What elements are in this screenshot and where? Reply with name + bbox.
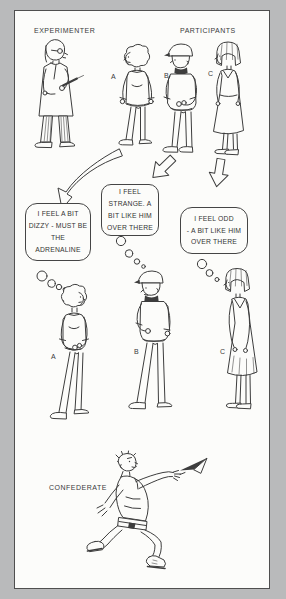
thought-trail-b [116,236,145,268]
paper-airplane-icon [180,458,207,475]
thought-trail-c [197,259,219,281]
thought-bubble-b: I FEEL STRANGE. A BIT LIKE HIM OVER THER… [101,184,159,236]
participant-a-top-figure [119,44,154,145]
flat-cap-icon [169,44,193,56]
arrow-participant-b-icon [146,151,179,184]
thought-bubble-a: I FEEL A BIT DIZZY - MUST BE THE ADRENAL… [25,203,91,261]
participant-b-top-figure [163,44,197,152]
participant-a-middle-figure [50,284,88,419]
confederate-figure [87,451,181,569]
illustration-line-art [15,11,269,588]
flat-cap-icon [139,271,164,283]
participant-b-middle-figure [129,271,172,409]
illustration-panel: EXPERIMENTER PARTICIPANTS CONFEDERATE A … [14,10,270,589]
thought-trail-a [37,271,67,291]
participant-c-top-figure [214,42,244,155]
participant-c-middle-figure [224,269,257,409]
experimenter-figure [35,40,84,148]
thought-bubble-c: I FEEL ODD - A BIT LIKE HIM OVER THERE [180,207,248,254]
arrow-participant-c-icon [207,158,230,189]
